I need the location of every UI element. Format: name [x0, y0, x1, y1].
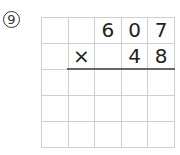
- problem-number-badge: 9: [3, 11, 20, 28]
- answer-cell-r4-c5[interactable]: [148, 96, 175, 122]
- answer-cell-r5-c1[interactable]: [42, 122, 69, 148]
- digit-0: 0: [122, 18, 149, 44]
- answer-cell-r3-c4[interactable]: [122, 70, 149, 96]
- answer-cell-r4-c2[interactable]: [69, 96, 96, 122]
- answer-cell-r4-c1[interactable]: [42, 96, 69, 122]
- digit-7: 7: [148, 18, 175, 44]
- grid-cell-r1-c1[interactable]: [42, 18, 69, 44]
- multiplication-grid: 6 0 7 × 4 8: [41, 17, 175, 148]
- answer-cell-r3-c1[interactable]: [42, 70, 69, 96]
- sum-divider-line: [67, 68, 175, 70]
- answer-cell-r4-c3[interactable]: [95, 96, 122, 122]
- answer-cell-r5-c2[interactable]: [69, 122, 96, 148]
- answer-cell-r5-c5[interactable]: [148, 122, 175, 148]
- answer-cell-r3-c3[interactable]: [95, 70, 122, 96]
- answer-cell-r3-c5[interactable]: [148, 70, 175, 96]
- grid-cell-r2-c3[interactable]: [95, 44, 122, 70]
- grid-cell-r2-c1[interactable]: [42, 44, 69, 70]
- answer-cell-r3-c2[interactable]: [69, 70, 96, 96]
- answer-cell-r4-c4[interactable]: [122, 96, 149, 122]
- grid-cell-r1-c2[interactable]: [69, 18, 96, 44]
- answer-cell-r5-c3[interactable]: [95, 122, 122, 148]
- multiply-sign: ×: [69, 44, 96, 70]
- digit-4: 4: [122, 44, 149, 70]
- answer-cell-r5-c4[interactable]: [122, 122, 149, 148]
- digit-6: 6: [95, 18, 122, 44]
- digit-8: 8: [148, 44, 175, 70]
